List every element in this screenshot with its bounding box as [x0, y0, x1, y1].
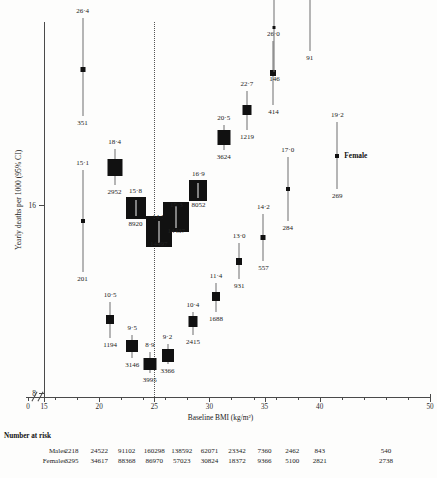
- point-count-label: 14437: [168, 227, 186, 235]
- chart-figure: 168015202530354050Yearly deaths per 1000…: [0, 0, 437, 478]
- marker-box: [126, 340, 138, 352]
- series-inline-label: Female: [344, 151, 367, 160]
- point-count-label: 8052: [191, 201, 205, 209]
- point-value-label: 10·4: [186, 301, 199, 309]
- x-tick-minor: [143, 397, 144, 400]
- point-count-label: 1688: [209, 315, 223, 323]
- point-count-label: 557: [258, 264, 269, 272]
- y-axis-title: Yearly deaths per 1000 (95% CI): [14, 150, 23, 250]
- number-at-risk-cell: 9366: [258, 457, 272, 465]
- x-tick-minor: [121, 397, 122, 400]
- marker-box: [273, 26, 276, 29]
- point-count-label: 201: [77, 275, 88, 283]
- y-tick: [39, 205, 45, 206]
- number-at-risk-cell: 18372: [228, 457, 246, 465]
- point-count-label: 2952: [108, 188, 122, 196]
- point-value-label: 17·0: [281, 146, 294, 154]
- number-at-risk-title: Number at risk: [4, 432, 51, 440]
- point-count-label: 1194: [103, 341, 117, 349]
- point-value-label: 19·2: [331, 111, 344, 119]
- point-count-label: 146: [269, 75, 280, 83]
- confidence-interval-bar: [274, 0, 275, 72]
- point-value-label: 15·3: [170, 201, 183, 209]
- number-at-risk-cell: 138592: [171, 447, 192, 455]
- x-tick-minor: [386, 397, 387, 400]
- number-at-risk-cell: 2821: [313, 457, 327, 465]
- number-at-risk-cell: 57023: [173, 457, 191, 465]
- point-count-label: 91: [306, 54, 313, 62]
- number-at-risk-cell: 24522: [90, 447, 108, 455]
- point-count-label: 2415: [186, 338, 200, 346]
- x-tick-minor: [342, 397, 343, 400]
- number-at-risk-cell: 7360: [258, 447, 272, 455]
- x-tick-minor: [298, 397, 299, 400]
- number-at-risk-cell: 62071: [201, 447, 219, 455]
- point-value-label: 18·4: [108, 138, 121, 146]
- number-at-risk-cell: 2462: [285, 447, 299, 455]
- marker-box: [212, 292, 220, 301]
- x-tick-label: 25: [151, 403, 158, 411]
- point-count-label: 3624: [217, 153, 231, 161]
- point-value-label: 9·5: [128, 324, 137, 332]
- x-tick-minor: [254, 397, 255, 400]
- point-count-label: 8920: [129, 220, 143, 228]
- number-at-risk-cell: 540: [381, 447, 392, 455]
- number-at-risk-cell: 88368: [118, 457, 136, 465]
- x-tick-label: 20: [96, 403, 103, 411]
- number-at-risk-cell: 86970: [146, 457, 164, 465]
- point-value-label: 14·2: [257, 203, 270, 211]
- x-tick: [265, 397, 266, 402]
- number-at-risk-cell: 3295: [65, 457, 79, 465]
- marker-box: [286, 187, 290, 191]
- point-count-label: 1219: [240, 133, 254, 141]
- number-at-risk-row-label: Females: [0, 457, 66, 465]
- y-axis: [44, 22, 45, 397]
- marker-box: [81, 219, 85, 223]
- number-at-risk-cell: 91102: [118, 447, 135, 455]
- point-value-label: 9·2: [163, 333, 172, 341]
- x-tick-minor: [187, 397, 188, 400]
- marker-box: [107, 159, 122, 176]
- x-tick-minor: [77, 397, 78, 400]
- marker-box: [236, 258, 242, 265]
- point-value-label: 11·4: [210, 272, 223, 280]
- point-count-label: 414: [268, 108, 279, 116]
- point-count-label: 14497: [150, 240, 168, 248]
- scatter-plot-area: 168015202530354050Yearly deaths per 1000…: [0, 0, 437, 478]
- number-at-risk-cell: 30824: [201, 457, 219, 465]
- x-tick-minor: [231, 397, 232, 400]
- x-tick: [209, 397, 210, 402]
- x-tick-label: 15: [40, 403, 47, 411]
- x-tick-minor: [276, 397, 277, 400]
- point-count-label: 3995: [143, 376, 157, 384]
- point-count-label: 931: [234, 282, 245, 290]
- point-count-label: 351: [77, 119, 88, 127]
- x-tick-minor: [364, 397, 365, 400]
- x-axis: [26, 397, 430, 398]
- point-value-label: 10·5: [104, 291, 117, 299]
- marker-box: [126, 197, 146, 219]
- number-at-risk-row-label: Males: [0, 447, 66, 455]
- x-tick-label: 30: [206, 403, 213, 411]
- point-count-label: 284: [282, 224, 293, 232]
- x-tick-minor: [408, 397, 409, 400]
- point-value-label: 22·7: [241, 80, 254, 88]
- marker-box: [80, 67, 85, 72]
- number-at-risk-cell: 2738: [379, 457, 393, 465]
- marker-box: [106, 315, 114, 324]
- marker-inner-line: [198, 183, 199, 198]
- point-count-label: 3366: [161, 367, 175, 375]
- x-tick-origin: [28, 397, 29, 401]
- marker-box: [143, 358, 156, 370]
- x-tick-end: [430, 394, 431, 398]
- number-at-risk-cell: 843: [314, 447, 325, 455]
- x-tick: [154, 397, 155, 402]
- number-at-risk-cell: 5100: [285, 457, 299, 465]
- point-value-label: 16·9: [192, 170, 205, 178]
- marker-box: [217, 130, 230, 145]
- point-value-label: 26·4: [76, 7, 89, 15]
- point-value-label: 15·1: [76, 159, 89, 167]
- confidence-interval-bar: [309, 0, 310, 51]
- marker-box: [261, 235, 266, 240]
- x-tick-label: 50: [426, 403, 433, 411]
